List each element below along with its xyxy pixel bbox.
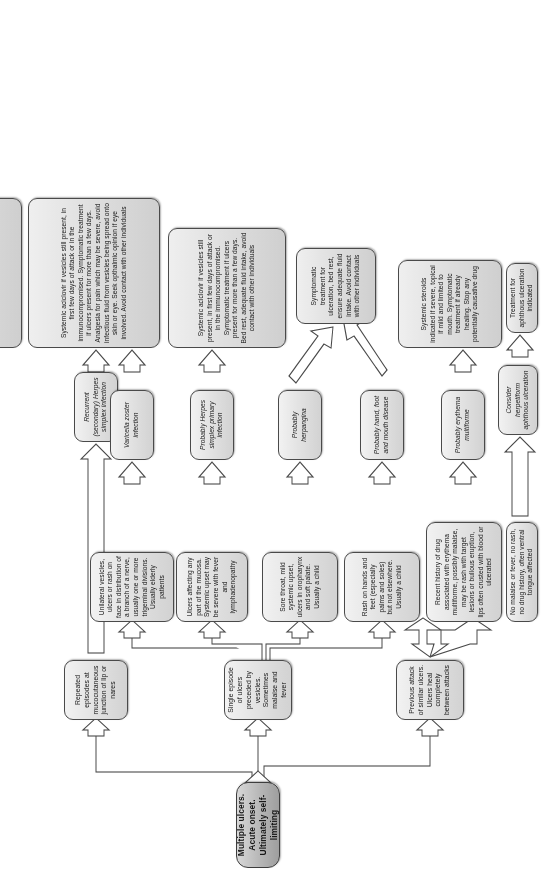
- node-feature-no-malaise: No malaise or fever, no rash, no drug hi…: [506, 522, 538, 622]
- node-feature-unilateral-vesicles-text: Unilateral vesicles, ulcers or rash on f…: [98, 556, 167, 618]
- flowchart-title-text: Multiple ulcers. Acute onset. Ultimately…: [236, 786, 280, 864]
- node-feature-drug-history-text: Recent history of drug associated with e…: [434, 526, 494, 618]
- node-feature-unilateral-vesicles: Unilateral vesicles, ulcers or rash on f…: [90, 552, 174, 622]
- node-branch-repeated-episodes: Repeated episodes at mucocutaneous junct…: [64, 660, 128, 720]
- rotated-figure-wrapper: Multiple ulcers. Acute onset. Ultimately…: [0, 0, 544, 876]
- node-treatment-symptomatic-ulceration: Symptomatic treatment for ulceration, be…: [296, 248, 376, 324]
- node-diagnosis-herpangina-text: Probably herpangina: [291, 394, 308, 456]
- flowchart-canvas: Multiple ulcers. Acute onset. Ultimately…: [0, 0, 544, 876]
- node-diagnosis-hand-foot-mouth: Probably hand, foot and mouth disease: [360, 390, 404, 460]
- node-treatment-symptomatic-ulceration-text: Symptomatic treatment for ulceration, be…: [310, 252, 361, 320]
- node-diagnosis-varicella-zoster-text: Varicella zoster infection: [123, 394, 140, 456]
- node-feature-sore-throat-text: Sore throat, mild systemic upset, ulcers…: [279, 556, 322, 618]
- node-feature-mucosal-ulcers: Ulcers affecting any part of the mucosa.…: [176, 552, 248, 622]
- node-feature-mucosal-ulcers-text: Ulcers affecting any part of the mucosa.…: [186, 556, 237, 618]
- node-feature-no-malaise-text: No malaise or fever, no rash, no drug hi…: [509, 526, 535, 618]
- node-branch-single-episode-text: Single episode of ulcers preceded by ves…: [227, 664, 289, 716]
- node-treatment-aphthous-ulceration-text: Treatment for aphthous ulceration indica…: [509, 267, 535, 329]
- node-treatment-recurrent-hsv: Topical or systemic aciclovir if in prod…: [0, 198, 22, 348]
- node-branch-previous-attack-text: Previous attack of similar ulcers. Ulcer…: [408, 664, 452, 716]
- node-branch-single-episode: Single episode of ulcers preceded by ves…: [224, 660, 292, 720]
- node-diagnosis-primary-hsv: Probably Herpes simplex primary infectio…: [190, 390, 234, 460]
- node-treatment-erythema-multiforme-text: Systemic steroids indicated if severe, t…: [420, 264, 480, 344]
- node-diagnosis-recurrent-hsv-text: Recurrent (secondary) Herpes simplex inf…: [83, 376, 109, 438]
- node-feature-rash-hands-feet: Rash on hands and feet (especially palms…: [344, 552, 420, 622]
- node-diagnosis-erythema-multiforme-text: Probably erythema multiforme: [454, 394, 471, 456]
- node-diagnosis-hand-foot-mouth-text: Probably hand, foot and mouth disease: [373, 394, 390, 456]
- node-treatment-primary-hsv-text: Systemic aciclovir if vesicles still pre…: [197, 232, 257, 344]
- node-diagnosis-erythema-multiforme: Probably erythema multiforme: [441, 390, 485, 460]
- node-feature-sore-throat: Sore throat, mild systemic upset, ulcers…: [262, 552, 338, 622]
- node-treatment-erythema-multiforme: Systemic steroids indicated if severe, t…: [398, 260, 502, 348]
- node-treatment-primary-hsv: Systemic aciclovir if vesicles still pre…: [168, 228, 286, 348]
- node-feature-drug-history: Recent history of drug associated with e…: [426, 522, 502, 622]
- node-branch-previous-attack: Previous attack of similar ulcers. Ulcer…: [396, 660, 464, 720]
- node-branch-repeated-episodes-text: Repeated episodes at mucocutaneous junct…: [74, 664, 118, 716]
- node-diagnosis-herpetiform-aphthous-text: Consider herpetiform aphthous ulceration: [505, 369, 531, 431]
- node-feature-rash-hands-feet-text: Rash on hands and feet (especially palms…: [361, 556, 404, 618]
- node-treatment-varicella-zoster: Systemic aciclovir if vesicles still pre…: [28, 198, 160, 348]
- node-diagnosis-herpetiform-aphthous: Consider herpetiform aphthous ulceration: [498, 365, 538, 435]
- node-treatment-varicella-zoster-text: Systemic aciclovir if vesicles still pre…: [60, 202, 129, 344]
- flowchart-title-node: Multiple ulcers. Acute onset. Ultimately…: [236, 782, 280, 868]
- node-diagnosis-varicella-zoster: Varicella zoster infection: [110, 390, 154, 460]
- node-diagnosis-herpangina: Probably herpangina: [278, 390, 322, 460]
- node-treatment-aphthous-ulceration: Treatment for aphthous ulceration indica…: [506, 263, 538, 333]
- node-diagnosis-primary-hsv-text: Probably Herpes simplex primary infectio…: [199, 394, 225, 456]
